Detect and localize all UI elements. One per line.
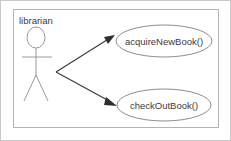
association-line bbox=[56, 38, 110, 72]
actor-stick-figure bbox=[22, 27, 52, 101]
actor-right-leg-line bbox=[36, 75, 48, 101]
arrowhead-icon bbox=[104, 97, 117, 106]
use-case-label: checkOutBook() bbox=[130, 100, 198, 111]
association-acquire-new-book bbox=[56, 35, 115, 72]
actor-head-icon bbox=[27, 27, 45, 48]
use-case-diagram-canvas: librarian acquireNewBook() checkOutBook(… bbox=[0, 0, 231, 141]
association-line bbox=[56, 72, 111, 102]
actor-left-leg-line bbox=[24, 75, 36, 101]
use-case-label: acquireNewBook() bbox=[125, 36, 203, 47]
actor-label: librarian bbox=[19, 15, 53, 26]
association-check-out-book bbox=[56, 72, 117, 106]
use-case-acquire-new-book[interactable]: acquireNewBook() bbox=[116, 25, 212, 57]
use-case-check-out-book[interactable]: checkOutBook() bbox=[117, 89, 211, 121]
arrowhead-icon bbox=[104, 35, 115, 44]
